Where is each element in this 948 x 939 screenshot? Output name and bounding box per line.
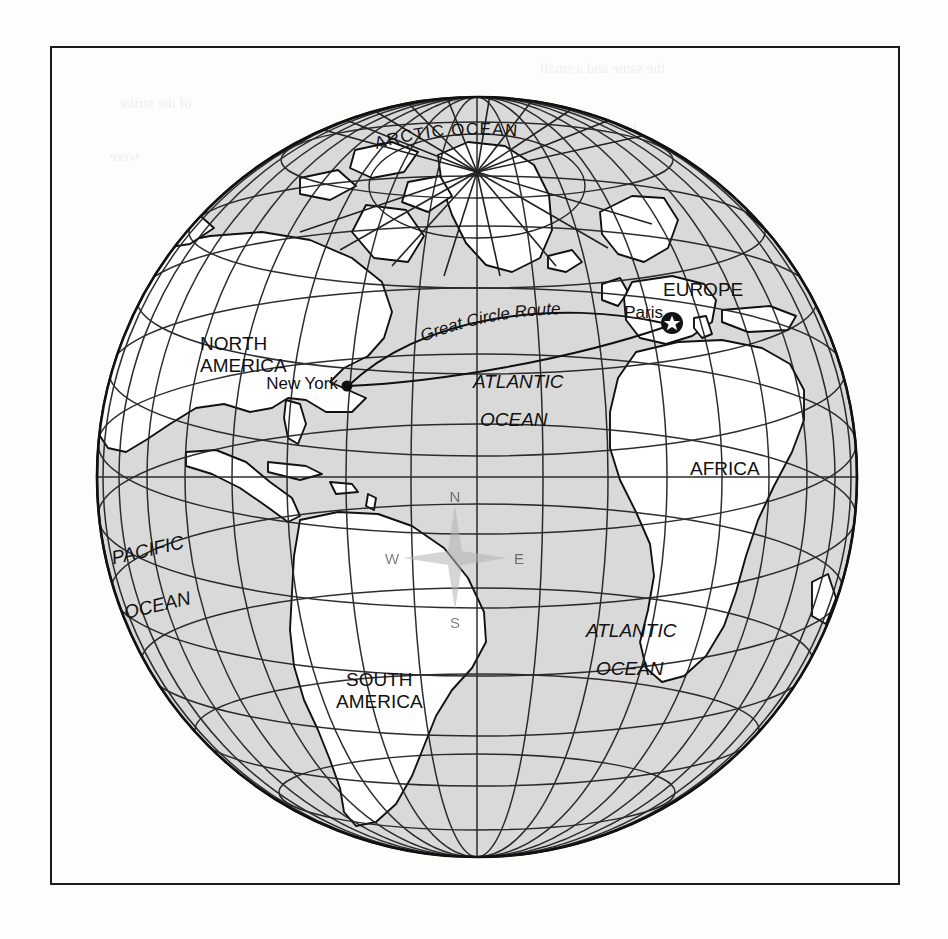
figure-border-frame [50, 46, 900, 885]
